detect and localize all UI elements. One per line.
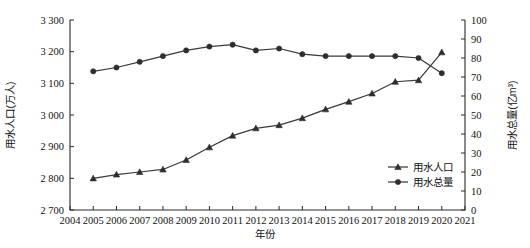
- data-point-circle: [323, 54, 328, 59]
- data-point-circle: [160, 54, 165, 59]
- x-axis-tick-label: 2017: [362, 215, 383, 226]
- data-point-triangle: [439, 49, 445, 55]
- x-axis-tick-label: 2007: [129, 215, 150, 226]
- data-point-circle: [369, 54, 374, 59]
- y-axis-tick-label: 3 100: [40, 78, 64, 89]
- x-axis-tick-label: 2009: [176, 215, 197, 226]
- x-axis-tick-label: 2019: [408, 215, 429, 226]
- data-point-circle: [277, 46, 282, 51]
- x-axis-tick-label: 2014: [292, 215, 314, 226]
- data-point-circle: [416, 55, 421, 60]
- data-point-circle: [230, 42, 235, 47]
- legend-label-1: 用水人口: [413, 161, 453, 173]
- data-point-triangle: [183, 157, 189, 163]
- x-axis-tick-label: 2021: [455, 215, 476, 226]
- x-axis-title: 年份: [255, 228, 276, 240]
- chart-container: 2 7002 8002 9003 0003 1003 2003 30001020…: [0, 0, 530, 248]
- line-chart: 2 7002 8002 9003 0003 1003 2003 30001020…: [0, 0, 530, 248]
- x-axis-tick-label: 2016: [338, 215, 359, 226]
- y-axis-tick-label: 2 800: [40, 173, 64, 184]
- y-axis-title: 用水人口(万人): [4, 82, 16, 149]
- series-line-2: [93, 45, 442, 73]
- series-line-1: [93, 52, 442, 178]
- y2-axis-tick-label: 90: [471, 34, 482, 45]
- data-point-circle: [393, 54, 398, 59]
- data-point-circle: [91, 69, 96, 74]
- legend-marker-circle: [395, 179, 400, 184]
- y2-axis-tick-label: 40: [471, 129, 482, 140]
- data-point-circle: [300, 52, 305, 57]
- y2-axis-tick-label: 100: [471, 15, 487, 26]
- y-axis-tick-label: 3 000: [40, 110, 64, 121]
- y-axis-tick-label: 3 300: [40, 15, 64, 26]
- x-axis-tick-label: 2005: [83, 215, 104, 226]
- x-axis-tick-label: 2006: [106, 215, 127, 226]
- y2-axis-tick-label: 50: [471, 110, 482, 121]
- x-axis-tick-label: 2010: [199, 215, 220, 226]
- legend-label-2: 用水总量: [413, 176, 454, 188]
- x-axis-tick-label: 2012: [245, 215, 266, 226]
- data-point-circle: [114, 65, 119, 70]
- data-point-triangle: [206, 144, 212, 150]
- data-point-circle: [207, 44, 212, 49]
- data-point-circle: [137, 59, 142, 64]
- data-point-circle: [439, 71, 444, 76]
- y-axis-tick-label: 2 700: [40, 205, 64, 216]
- data-point-triangle: [369, 90, 375, 96]
- x-axis-tick-label: 2004: [60, 215, 82, 226]
- y2-axis-tick-label: 0: [471, 205, 476, 216]
- x-axis-tick-label: 2015: [315, 215, 336, 226]
- x-axis-tick-label: 2008: [152, 215, 173, 226]
- data-point-circle: [346, 54, 351, 59]
- y2-axis-tick-label: 80: [471, 53, 482, 64]
- y-axis-tick-label: 3 200: [40, 46, 64, 57]
- y2-axis-tick-label: 70: [471, 72, 482, 83]
- x-axis-tick-label: 2013: [269, 215, 290, 226]
- y2-axis-tick-label: 60: [471, 91, 482, 102]
- y2-axis-tick-label: 30: [471, 148, 482, 159]
- y2-axis-title: 用水总量(亿m³): [506, 80, 518, 149]
- x-axis-tick-label: 2020: [431, 215, 452, 226]
- y2-axis-tick-label: 10: [471, 186, 482, 197]
- x-axis-tick-label: 2011: [222, 215, 243, 226]
- y2-axis-tick-label: 20: [471, 167, 482, 178]
- data-point-circle: [253, 48, 258, 53]
- data-point-circle: [184, 48, 189, 53]
- x-axis-tick-label: 2018: [385, 215, 406, 226]
- y-axis-tick-label: 2 900: [40, 141, 64, 152]
